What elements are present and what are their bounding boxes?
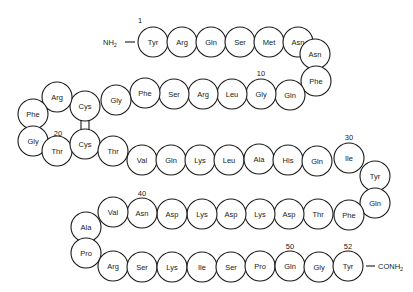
residue-label: Ile xyxy=(198,263,206,272)
residue-51-gly: Gly xyxy=(304,252,334,282)
residue-label: Phe xyxy=(309,77,322,86)
residue-label: His xyxy=(283,156,294,165)
residue-1-tyr: Tyr xyxy=(138,27,168,57)
residue-20-thr: Thr xyxy=(42,136,72,166)
residue-24-gln: Gln xyxy=(156,145,186,175)
residue-label: Lys xyxy=(194,156,206,165)
residue-label: Leu xyxy=(226,90,239,99)
residue-48-ser: Ser xyxy=(216,252,246,282)
residue-39-asp: Asp xyxy=(157,199,187,229)
residue-label: Ile xyxy=(345,154,353,163)
residue-label: Gln xyxy=(205,38,217,47)
residue-label: Cys xyxy=(79,102,92,111)
residue-label: Lys xyxy=(254,210,266,219)
residue-23-val: Val xyxy=(127,145,157,175)
residue-36-lys: Lys xyxy=(245,199,275,229)
residue-label: Arg xyxy=(176,38,188,47)
residue-32-gln: Gln xyxy=(360,188,390,218)
residue-13-ser: Ser xyxy=(159,79,189,109)
position-number: 50 xyxy=(286,242,294,251)
residue-label: Pro xyxy=(254,262,266,271)
residue-label: Gly xyxy=(110,96,122,105)
residue-15-gly: Gly xyxy=(101,85,131,115)
residue-label: Gln xyxy=(284,262,296,271)
residue-label: Arg xyxy=(197,90,209,99)
residue-4-ser: Ser xyxy=(225,27,255,57)
residue-label: Leu xyxy=(223,156,236,165)
residue-43-pro: Pro xyxy=(71,238,101,268)
residue-40-asn: Asn xyxy=(127,198,157,228)
residue-label: Tyr xyxy=(370,172,381,181)
residue-47-ile: Ile xyxy=(187,252,217,282)
residue-35-asp: Asp xyxy=(274,199,304,229)
residue-26-leu: Leu xyxy=(214,145,244,175)
residue-label: Ala xyxy=(81,223,93,232)
residue-label: Phe xyxy=(26,110,39,119)
residue-34-thr: Thr xyxy=(303,199,333,229)
residue-18-phe: Phe xyxy=(18,99,48,129)
n-terminus-label: NH2 xyxy=(103,38,117,48)
residue-label: Arg xyxy=(107,262,119,271)
residue-label: Tyr xyxy=(343,262,354,271)
residue-27-ala: Ala xyxy=(244,144,274,174)
residue-16-cys: Cys xyxy=(70,91,100,121)
position-number: 1 xyxy=(138,16,142,25)
residue-30-ile: Ile xyxy=(334,143,364,173)
position-number: 10 xyxy=(257,69,265,78)
residue-label: Gly xyxy=(313,263,325,272)
residue-label: Asp xyxy=(166,210,179,219)
residue-2-arg: Arg xyxy=(167,27,197,57)
residue-label: Ser xyxy=(136,263,148,272)
residue-3-gln: Gln xyxy=(196,27,226,57)
residue-41-val: Val xyxy=(98,197,128,227)
residue-37-asp: Asp xyxy=(216,199,246,229)
residue-label: Thr xyxy=(107,147,119,156)
residue-label: Val xyxy=(108,208,119,217)
residue-25-lys: Lys xyxy=(185,145,215,175)
residue-label: Ser xyxy=(168,90,180,99)
residue-10-gly: Gly xyxy=(246,79,276,109)
residue-29-gln: Gln xyxy=(302,146,332,176)
residue-label: Asn xyxy=(309,50,322,59)
residue-45-ser: Ser xyxy=(127,252,157,282)
residue-label: Gln xyxy=(165,156,177,165)
residue-label: Val xyxy=(137,156,148,165)
residue-label: Lys xyxy=(166,263,178,272)
position-number: 52 xyxy=(344,242,352,251)
residue-31-tyr: Tyr xyxy=(360,161,390,191)
residue-label: Gln xyxy=(369,199,381,208)
c-terminus-label: CONH2 xyxy=(378,262,403,272)
residue-11-leu: Leu xyxy=(217,79,247,109)
residue-chain: TyrArgGlnSerMetAsnAsnPheGlnGlyLeuArgSerP… xyxy=(18,27,390,282)
residue-label: Phe xyxy=(342,211,355,220)
residue-label: Asp xyxy=(225,210,238,219)
peptide-sequence-diagram: TyrArgGlnSerMetAsnAsnPheGlnGlyLeuArgSerP… xyxy=(0,0,413,292)
residue-5-met: Met xyxy=(254,27,284,57)
residue-7-asn: Asn xyxy=(300,39,330,69)
residue-label: Asn xyxy=(136,209,149,218)
residue-44-arg: Arg xyxy=(98,251,128,281)
residue-52-tyr: Tyr xyxy=(333,251,363,281)
residue-22-thr: Thr xyxy=(98,136,128,166)
residue-38-lys: Lys xyxy=(187,199,217,229)
position-number: 40 xyxy=(138,189,146,198)
residue-label: Thr xyxy=(312,210,324,219)
residue-8-phe: Phe xyxy=(301,66,331,96)
residue-label: Thr xyxy=(51,147,63,156)
residue-33-phe: Phe xyxy=(334,200,364,230)
residue-14-phe: Phe xyxy=(130,78,160,108)
residue-label: Lys xyxy=(196,210,208,219)
residue-label: Ser xyxy=(234,38,246,47)
residue-label: Gly xyxy=(255,90,267,99)
residue-label: Pro xyxy=(80,249,92,258)
residue-label: Ser xyxy=(225,263,237,272)
residue-label: Tyr xyxy=(148,38,159,47)
residue-9-gln: Gln xyxy=(275,80,305,110)
residue-46-lys: Lys xyxy=(157,252,187,282)
residue-label: Ala xyxy=(254,155,266,164)
residue-label: Gly xyxy=(27,137,39,146)
residue-label: Met xyxy=(263,38,276,47)
residue-label: Phe xyxy=(138,89,151,98)
residue-12-arg: Arg xyxy=(188,79,218,109)
residue-28-his: His xyxy=(273,145,303,175)
